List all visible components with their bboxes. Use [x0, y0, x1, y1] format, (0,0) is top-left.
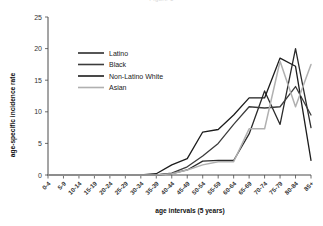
x-tick-label: 20-24: [97, 179, 114, 196]
x-tick-label: 35-39: [144, 179, 161, 196]
x-tick-label: 75-79: [268, 179, 285, 196]
x-tick-label: 50-54: [190, 179, 207, 196]
legend-label-non-latino-white[interactable]: Non-Latino White: [109, 73, 163, 80]
series-lines: [48, 49, 311, 175]
y-tick-label: 20: [34, 45, 42, 52]
series-line-latino: [48, 49, 311, 175]
x-tick-label: 5-9: [56, 179, 68, 191]
x-tick-label: 55-59: [206, 179, 223, 196]
y-tick-label: 15: [34, 77, 42, 84]
legend-label-asian[interactable]: Asian: [109, 84, 127, 91]
x-tick-label: 25-29: [113, 179, 130, 196]
x-tick-label: 85+: [302, 179, 315, 192]
x-tick-label: 45-49: [175, 179, 192, 196]
figure-title: Figure 1: [0, 0, 323, 4]
x-tick-label: 0-4: [40, 179, 52, 191]
x-tick-label: 60-64: [221, 179, 238, 196]
x-tick-label: 10-14: [67, 179, 84, 196]
figure-container: Figure 1 age-specific incidence rate age…: [0, 0, 323, 226]
line-chart: age-specific incidence rate age interval…: [0, 0, 323, 226]
x-tick-label: 40-44: [159, 179, 176, 196]
chart-legend: LatinoBlackNon-Latino WhiteAsian: [78, 50, 163, 92]
x-tick-label: 65-69: [237, 179, 254, 196]
x-tick-label: 70-74: [252, 179, 269, 196]
x-tick-label: 15-19: [82, 179, 99, 196]
x-tick-label: 30-34: [128, 179, 145, 196]
y-tick-label: 5: [38, 140, 42, 147]
x-axis-title: age intervals (5 years): [155, 207, 224, 215]
x-tick-label: 80-84: [283, 179, 300, 196]
y-axis-title: age-specific incidence rate: [9, 73, 17, 158]
y-tick-label: 0: [38, 172, 42, 179]
legend-label-latino[interactable]: Latino: [109, 50, 128, 57]
y-tick-label: 25: [34, 14, 42, 21]
legend-label-black[interactable]: Black: [109, 61, 127, 68]
y-tick-label: 10: [34, 108, 42, 115]
x-axis-tick-labels: 0-45-910-1415-1920-2425-2930-3435-3940-4…: [40, 179, 315, 196]
y-axis-ticks: 0510152025: [34, 14, 48, 179]
